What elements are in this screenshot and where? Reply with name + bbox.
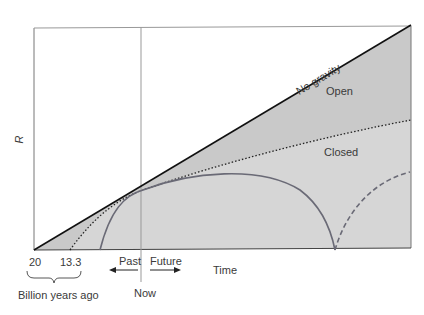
past-arrow-icon xyxy=(109,267,116,273)
top-border xyxy=(34,26,411,28)
future-label: Future xyxy=(150,256,182,267)
now-label: Now xyxy=(134,288,156,299)
y-axis-label: R xyxy=(14,136,25,144)
closed-label: Closed xyxy=(324,147,358,158)
billion-years-ago-label: Billion years ago xyxy=(18,290,99,301)
tick-20: 20 xyxy=(29,257,41,268)
future-arrow-icon xyxy=(174,267,181,273)
past-label: Past xyxy=(119,256,141,267)
open-label: Open xyxy=(326,86,353,97)
brace xyxy=(27,271,81,283)
x-axis-label: Time xyxy=(213,265,237,276)
tick-13-3: 13.3 xyxy=(60,257,81,268)
